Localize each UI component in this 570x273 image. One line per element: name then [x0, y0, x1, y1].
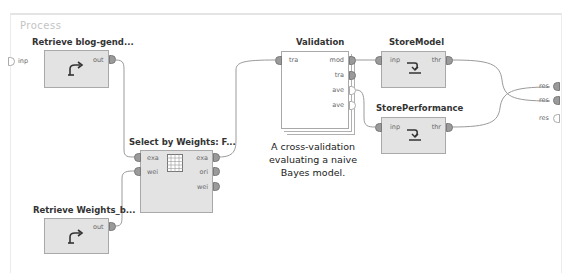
port-label-out: out	[93, 223, 104, 232]
port-label-wei-in: wei	[147, 168, 158, 177]
port-label-wei-out: wei	[197, 183, 208, 192]
select-by-weights-title: Select by Weights: F...	[129, 137, 236, 147]
port-label-tra-in: tra	[289, 56, 298, 65]
port-label-out: out	[93, 56, 104, 65]
store-model-title: StoreModel	[389, 37, 444, 47]
port-label-inp: inp	[390, 56, 400, 65]
port-label-inp: inp	[390, 123, 400, 132]
result-port-1[interactable]	[553, 82, 560, 91]
validation-operator[interactable]: tra mod tra ave ave	[281, 51, 349, 129]
result-port-label: res	[539, 114, 549, 123]
comment-line: A cross-validation	[253, 140, 373, 153]
process-input-port-label: inp	[18, 57, 28, 66]
result-port-3[interactable]	[553, 114, 560, 123]
port-label-exa-in: exa	[147, 154, 159, 163]
retrieve-weights-operator[interactable]: out	[44, 218, 109, 254]
retrieve-icon	[67, 229, 85, 245]
port-label-thr: thr	[432, 56, 441, 65]
store-performance-inp-port[interactable]	[375, 123, 382, 132]
store-icon	[406, 60, 422, 76]
validation-tra-in-port[interactable]	[275, 56, 282, 65]
retrieve-weights-title: Retrieve Weights_b...	[33, 205, 136, 215]
select-by-weights-operator[interactable]: exa wei exa ori wei	[140, 150, 213, 213]
store-performance-operator[interactable]: inp thr	[381, 117, 446, 154]
port-label-ave-out: ave	[332, 86, 344, 95]
retrieve-blog-operator[interactable]: out	[44, 50, 109, 88]
port-label-ave-out-2: ave	[332, 101, 344, 110]
result-port-label: res	[539, 82, 549, 91]
comment-line: evaluating a naive	[253, 153, 373, 166]
result-port-2[interactable]	[553, 96, 560, 105]
port-label-tra-out: tra	[335, 71, 344, 80]
store-icon	[406, 127, 422, 143]
select-wei-in-port[interactable]	[134, 167, 141, 176]
table-grid-icon	[167, 154, 183, 172]
store-model-operator[interactable]: inp thr	[381, 51, 446, 88]
result-port-label: res	[539, 96, 549, 105]
retrieve-blog-title: Retrieve blog-gend...	[32, 37, 134, 47]
retrieve-icon	[67, 61, 85, 77]
select-exa-in-port[interactable]	[134, 153, 141, 162]
port-label-thr: thr	[432, 123, 441, 132]
port-label-ori-out: ori	[200, 168, 208, 177]
store-performance-title: StorePerformance	[376, 103, 463, 113]
comment-line: Bayes model.	[253, 166, 373, 179]
validation-title: Validation	[296, 37, 344, 47]
port-label-mod-out: mod	[330, 56, 344, 65]
port-label-exa-out: exa	[196, 154, 208, 163]
store-model-inp-port[interactable]	[375, 56, 382, 65]
validation-comment: A cross-validation evaluating a naive Ba…	[253, 140, 373, 179]
